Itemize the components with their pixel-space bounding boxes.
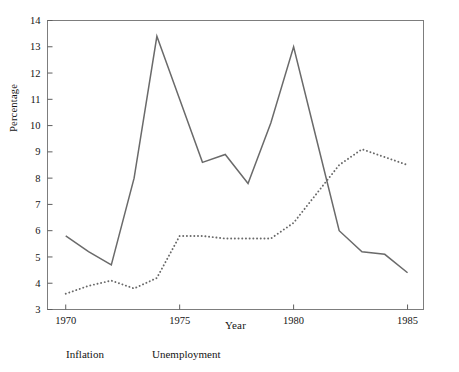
y-axis-tick-label: 8 xyxy=(35,173,40,184)
chart-legend: Inflation Unemployment xyxy=(0,348,459,366)
y-axis-tick-label: 7 xyxy=(35,199,40,210)
legend-label-inflation: Inflation xyxy=(66,348,104,360)
y-axis-tick-label: 9 xyxy=(35,146,40,157)
y-axis-tick-label: 12 xyxy=(30,68,41,79)
plot-frame xyxy=(48,21,424,310)
plot-frame-border xyxy=(48,21,424,310)
chart-figure: 34567891011121314 1970197519801985 Perce… xyxy=(0,0,459,372)
line-chart-plot: 34567891011121314 1970197519801985 xyxy=(0,0,459,372)
y-axis-tick-group xyxy=(48,21,53,310)
y-axis-tick-label: 13 xyxy=(30,41,41,52)
y-axis-tick-label: 3 xyxy=(35,304,40,315)
series-line-unemployment xyxy=(66,149,408,293)
x-axis-tick-group xyxy=(66,305,408,310)
y-axis-tick-label: 10 xyxy=(30,120,41,131)
y-axis-tick-label: 11 xyxy=(30,94,40,105)
legend-label-unemployment: Unemployment xyxy=(152,348,220,360)
series-line-inflation xyxy=(66,36,408,272)
y-axis-tick-label: 14 xyxy=(30,15,41,26)
y-axis-tick-label: 4 xyxy=(35,278,41,289)
y-axis-tick-label: 6 xyxy=(35,225,40,236)
y-axis-tick-label-group: 34567891011121314 xyxy=(30,15,41,315)
x-axis-title: Year xyxy=(0,319,459,331)
y-axis-tick-label: 5 xyxy=(35,252,40,263)
y-axis-title: Percentage xyxy=(8,84,19,132)
